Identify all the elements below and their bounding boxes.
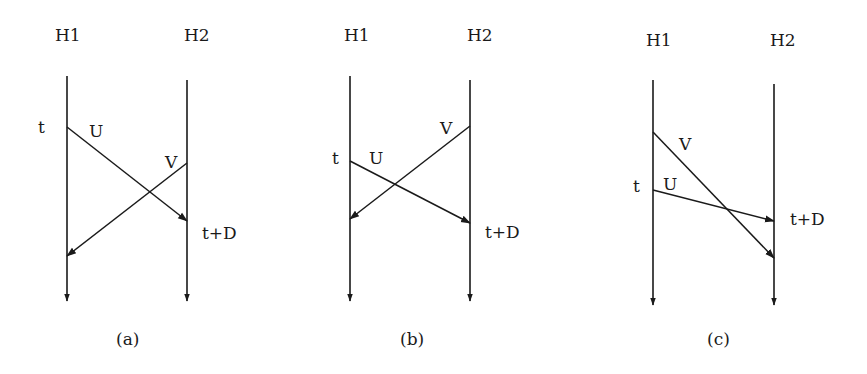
host-h2-label: H2 xyxy=(467,25,493,45)
host-h1-label: H1 xyxy=(344,25,370,45)
time-t-label: t xyxy=(332,148,339,168)
caption-a: (a) xyxy=(116,329,139,349)
host-h1-label: H1 xyxy=(55,25,81,45)
caption-b: (b) xyxy=(400,329,424,349)
message-u-arrow xyxy=(67,127,187,221)
message-u-arrow xyxy=(350,161,470,223)
deadline-label: t+D xyxy=(790,209,825,229)
message-v-label: V xyxy=(678,134,692,154)
message-v-arrow xyxy=(67,163,187,256)
diagram-canvas: H1 H2 t U V t+D (a) H1 H2 t U xyxy=(0,0,867,374)
message-v-arrow xyxy=(350,126,470,219)
time-t-label: t xyxy=(38,117,45,137)
time-t-label: t xyxy=(633,176,640,196)
panel-c: H1 H2 t U V t+D (c) xyxy=(633,30,825,349)
deadline-label: t+D xyxy=(202,223,237,243)
message-u-label: U xyxy=(89,121,103,141)
host-h2-label: H2 xyxy=(184,25,210,45)
caption-c: (c) xyxy=(707,329,730,349)
message-u-label: U xyxy=(663,174,677,194)
panel-a: H1 H2 t U V t+D (a) xyxy=(38,25,237,349)
message-v-label: V xyxy=(439,118,453,138)
message-v-label: V xyxy=(164,152,178,172)
deadline-label: t+D xyxy=(485,222,520,242)
panel-b: H1 H2 t U V t+D (b) xyxy=(332,25,520,349)
message-u-label: U xyxy=(369,148,383,168)
space-time-diagram-figure: H1 H2 t U V t+D (a) H1 H2 t U xyxy=(0,0,867,374)
host-h1-label: H1 xyxy=(646,30,672,50)
host-h2-label: H2 xyxy=(770,30,796,50)
